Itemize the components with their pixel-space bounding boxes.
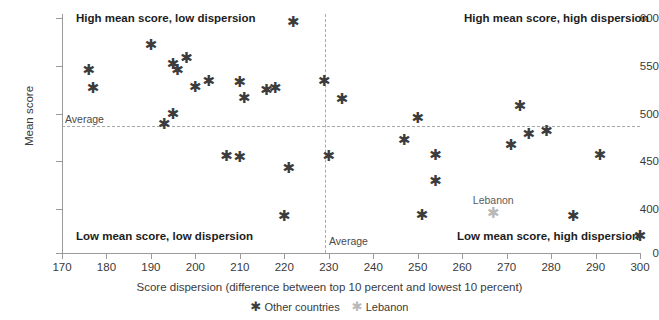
scatter-chart: Mean score Score dispersion (difference … <box>0 0 659 320</box>
data-point: ✱ <box>318 74 331 89</box>
quadrant-label-bottom-left: Low mean score, low dispersion <box>76 230 253 242</box>
average-label-vertical: Average <box>328 235 369 247</box>
x-axis-tick-label: 290 <box>586 261 605 273</box>
x-axis-tick <box>418 253 419 259</box>
data-point: ✱ <box>523 126 536 141</box>
legend-item-other-countries: ✱ Other countries <box>251 301 340 313</box>
x-axis-tick <box>507 253 508 259</box>
data-point: ✱ <box>180 51 193 66</box>
x-axis-tick <box>373 253 374 259</box>
data-point: ✱ <box>429 147 442 162</box>
data-point: ✱ <box>429 174 442 189</box>
x-axis-tick-label: 260 <box>453 261 472 273</box>
data-point: ✱ <box>269 80 282 95</box>
x-axis-tick-label: 270 <box>497 261 516 273</box>
x-axis-tick-label: 300 <box>630 261 649 273</box>
asterisk-icon: ✱ <box>352 299 363 314</box>
y-axis-tick <box>56 161 62 162</box>
data-point: ✱ <box>567 208 580 223</box>
x-axis-tick <box>329 253 330 259</box>
data-point: ✱ <box>238 91 251 106</box>
x-axis-tick <box>62 253 63 259</box>
data-point: ✱ <box>505 138 518 153</box>
data-point: ✱ <box>634 229 647 244</box>
data-point: ✱ <box>278 208 291 223</box>
y-axis-tick <box>56 18 62 19</box>
x-axis-tick <box>106 253 107 259</box>
data-point: ✱ <box>158 117 171 132</box>
data-point: ✱ <box>145 37 158 52</box>
y-axis-tick-label: 500 <box>613 108 659 120</box>
data-point: ✱ <box>287 14 300 29</box>
x-axis-tick <box>240 253 241 259</box>
y-axis-tick-label: 0 <box>613 247 659 259</box>
data-point: ✱ <box>189 79 202 94</box>
x-axis-tick-label: 230 <box>319 261 338 273</box>
x-axis-tick-label: 210 <box>230 261 249 273</box>
x-axis-line <box>62 253 640 254</box>
data-point: ✱ <box>540 123 553 138</box>
plot-area: Mean score Score dispersion (difference … <box>0 0 659 320</box>
x-axis-tick-label: 220 <box>275 261 294 273</box>
quadrant-label-top-right: High mean score, high dispersion <box>464 12 649 24</box>
legend-label-other-countries: Other countries <box>264 301 339 313</box>
x-axis-tick <box>151 253 152 259</box>
x-axis-tick-label: 250 <box>408 261 427 273</box>
data-point: ✱ <box>202 74 215 89</box>
x-axis-tick-label: 280 <box>541 261 560 273</box>
data-point: ✱ <box>594 147 607 162</box>
data-point: ✱ <box>87 80 100 95</box>
x-axis-tick <box>596 253 597 259</box>
average-label-horizontal: Average <box>64 113 105 125</box>
data-point: ✱ <box>82 62 95 77</box>
asterisk-icon: ✱ <box>251 299 262 314</box>
y-axis-tick-label: 450 <box>613 155 659 167</box>
data-point-lebanon: ✱ <box>487 205 500 220</box>
x-axis-tick-label: 200 <box>186 261 205 273</box>
x-axis-title: Score dispersion (difference between top… <box>0 281 659 293</box>
data-point: ✱ <box>234 74 247 89</box>
x-axis-tick <box>640 253 641 259</box>
y-axis-tick <box>56 209 62 210</box>
x-axis-tick-label: 190 <box>141 261 160 273</box>
data-point: ✱ <box>220 149 233 164</box>
data-point: ✱ <box>416 207 429 222</box>
x-axis-tick-label: 180 <box>97 261 116 273</box>
x-axis-tick-label: 170 <box>52 261 71 273</box>
y-axis-tick <box>56 66 62 67</box>
legend-label-lebanon: Lebanon <box>366 301 409 313</box>
x-axis-tick <box>284 253 285 259</box>
data-point: ✱ <box>322 149 335 164</box>
data-point: ✱ <box>282 160 295 175</box>
data-point: ✱ <box>398 133 411 148</box>
chart-legend: ✱ Other countries✱ Lebanon <box>0 299 659 314</box>
average-line-vertical <box>325 14 326 253</box>
data-point: ✱ <box>411 111 424 126</box>
y-axis-tick <box>56 114 62 115</box>
data-point-label: Lebanon <box>473 194 514 206</box>
x-axis-tick-label: 240 <box>364 261 383 273</box>
quadrant-label-bottom-right: Low mean score, high dispersion <box>457 230 639 242</box>
x-axis-tick <box>462 253 463 259</box>
y-axis-tick-label: 550 <box>613 60 659 72</box>
data-point: ✱ <box>514 98 527 113</box>
quadrant-label-top-left: High mean score, low dispersion <box>76 12 256 24</box>
y-axis-tick-label: 400 <box>613 203 659 215</box>
data-point: ✱ <box>336 92 349 107</box>
data-point: ✱ <box>234 150 247 165</box>
x-axis-tick <box>551 253 552 259</box>
y-axis-title: Mean score <box>23 71 35 161</box>
legend-item-lebanon: ✱ Lebanon <box>352 301 409 313</box>
x-axis-tick <box>195 253 196 259</box>
average-line-horizontal <box>62 126 640 127</box>
y-axis-line <box>62 14 63 254</box>
